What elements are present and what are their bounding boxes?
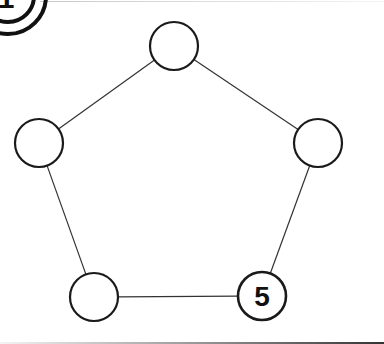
node-label: 5 bbox=[254, 281, 270, 312]
pentagon-graph: 1 5 bbox=[0, 0, 384, 344]
badge-number: 1 bbox=[0, 0, 14, 14]
node-left bbox=[15, 119, 63, 167]
node-top bbox=[150, 22, 198, 70]
edge-right-bottom-right bbox=[270, 166, 310, 274]
node-bottom-left bbox=[70, 273, 118, 321]
edge-top-right bbox=[194, 59, 298, 129]
node-right bbox=[294, 119, 342, 167]
step-badge: 1 bbox=[0, 0, 46, 34]
node-circle bbox=[70, 273, 118, 321]
node-circle bbox=[294, 119, 342, 167]
edge-bottom-right-bottom-left bbox=[118, 296, 238, 297]
nodes: 5 bbox=[15, 22, 342, 321]
edge-bottom-left-left bbox=[47, 166, 86, 275]
node-circle bbox=[150, 22, 198, 70]
node-bottom-right: 5 bbox=[238, 272, 286, 320]
edge-left-top bbox=[58, 60, 154, 129]
node-circle bbox=[15, 119, 63, 167]
edges bbox=[47, 59, 310, 296]
